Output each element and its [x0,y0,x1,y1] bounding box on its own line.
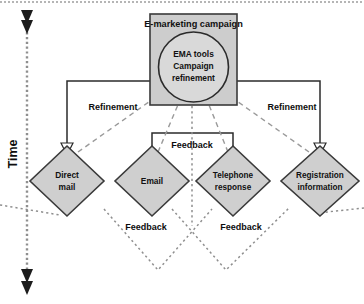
channel-node-telephone-response[interactable]: Telephone response [196,146,270,216]
label-feedback-center: Feedback [171,140,214,150]
dotted-path-right-v [172,207,290,270]
label-feedback-bottom-left: Feedback [125,222,168,232]
direct-mail-label-line-2: mail [59,182,76,192]
dotted-path-left-v [104,209,212,270]
registration-information-diamond[interactable] [281,146,359,216]
registration-information-label-line-2: information [297,183,342,192]
campaign-circle-line-3: refinement [172,73,215,83]
direct-mail-diamond[interactable] [30,146,104,216]
direct-mail-label-line-1: Direct [55,170,79,180]
refinement-right-connector [237,81,326,155]
label-refinement-right: Refinement [267,102,316,112]
email-label: Email [141,176,163,186]
telephone-response-label-line-2: response [215,183,252,192]
channel-node-direct-mail[interactable]: Direct mail [30,146,104,216]
registration-information-label-line-1: Registration [296,171,344,180]
campaign-circle-line-1: EMA tools [173,49,214,59]
label-refinement-left: Refinement [88,102,137,112]
telephone-response-label-line-1: Telephone [213,171,254,180]
label-feedback-bottom-right: Feedback [220,222,263,232]
campaign-box-title: E-marketing campaign [144,19,243,29]
campaign-box[interactable]: E-marketing campaign EMA tools Campaign … [144,14,243,105]
diagram-canvas: Time [0,0,364,304]
refinement-left-connector [61,81,150,155]
channel-node-registration-information[interactable]: Registration information [281,146,359,216]
emarketing-campaign-diagram: Time [0,0,364,304]
time-axis-arrow-bottom-2 [21,281,33,295]
time-axis-arrow-top-2 [21,20,33,34]
dotted-feedback-paths [0,205,364,270]
time-axis-arrow-bottom-1 [21,269,33,283]
channel-node-email[interactable]: Email [115,146,189,216]
time-axis-label: Time [6,139,20,168]
telephone-response-diamond[interactable] [196,146,270,216]
campaign-circle-line-2: Campaign [173,61,214,71]
time-axis: Time [6,10,33,295]
dotted-path-outer-left [0,205,60,215]
